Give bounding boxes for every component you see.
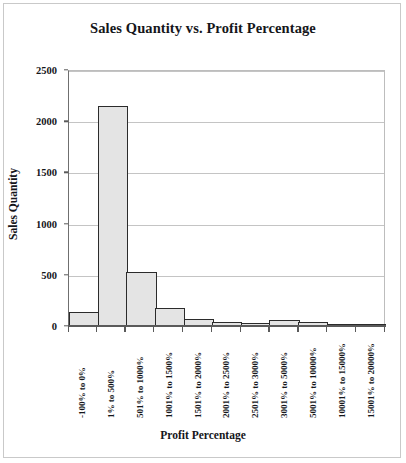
- x-label-slot: 5001% to 10000%: [299, 334, 328, 418]
- x-tick-label: 5001% to 10000%: [308, 348, 318, 418]
- y-tick-label: 500: [41, 269, 57, 280]
- x-tick-slot: [356, 326, 385, 332]
- x-tick-slot: [299, 326, 328, 332]
- y-tick-label: 1500: [36, 167, 57, 178]
- x-tick-slot: [212, 326, 241, 332]
- x-tick-slot: [126, 326, 155, 332]
- x-tick-slot: [154, 326, 183, 332]
- x-tick-label: 2001% to 2500%: [221, 352, 231, 418]
- x-tick-mark: [68, 326, 69, 332]
- y-tick-label: 2000: [36, 116, 57, 127]
- x-tick-slot: [97, 326, 126, 332]
- x-tick-label: 2501% to 3000%: [250, 352, 260, 418]
- chart-container: Sales Quantity vs. Profit Percentage Sal…: [0, 0, 406, 463]
- bar: [69, 312, 99, 326]
- x-label-slot: 501% to 1000%: [126, 334, 155, 418]
- x-tick-label: 501% to 1000%: [135, 357, 145, 418]
- x-label-slot: 1% to 500%: [97, 334, 126, 418]
- x-label-slot: 10001% to 15000%: [327, 334, 356, 418]
- y-axis-ticks: 05001000150020002500: [0, 70, 64, 326]
- x-label-slot: 2001% to 2500%: [212, 334, 241, 418]
- x-label-slot: 1001% to 1500%: [154, 334, 183, 418]
- plot-area: [68, 70, 385, 326]
- x-tick-label: 15001% to 20000%: [366, 343, 376, 418]
- bar: [126, 272, 156, 326]
- bar: [155, 308, 185, 326]
- x-tick-label: 10001% to 15000%: [337, 343, 347, 418]
- bars-layer: [69, 71, 384, 326]
- y-tick-label: 2500: [36, 65, 57, 76]
- x-axis-tick-marks: [68, 326, 385, 332]
- x-tick-label: 1% to 500%: [106, 370, 116, 418]
- x-label-slot: 15001% to 20000%: [356, 334, 385, 418]
- x-tick-label: 1501% to 2000%: [193, 352, 203, 418]
- x-tick-label: 3001% to 5000%: [279, 352, 289, 418]
- bar: [98, 106, 128, 326]
- x-label-slot: 1501% to 2000%: [183, 334, 212, 418]
- x-tick-slot: [68, 326, 97, 332]
- x-tick-slot: [327, 326, 356, 332]
- x-label-slot: 2501% to 3000%: [241, 334, 270, 418]
- x-label-slot: -100% to 0%: [68, 334, 97, 418]
- x-tick-label: -100% to 0%: [77, 367, 87, 418]
- x-tick-slot: [183, 326, 212, 332]
- y-tick-label: 0: [52, 321, 57, 332]
- x-tick-label: 1001% to 1500%: [164, 352, 174, 418]
- x-tick-slot: [241, 326, 270, 332]
- x-axis-tick-labels: -100% to 0%1% to 500%501% to 1000%1001% …: [68, 334, 385, 418]
- y-tick-label: 1000: [36, 218, 57, 229]
- chart-title: Sales Quantity vs. Profit Percentage: [0, 20, 406, 37]
- x-axis-title: Profit Percentage: [0, 429, 406, 441]
- x-tick-slot: [270, 326, 299, 332]
- x-label-slot: 3001% to 5000%: [270, 334, 299, 418]
- x-tick-mark: [384, 326, 385, 332]
